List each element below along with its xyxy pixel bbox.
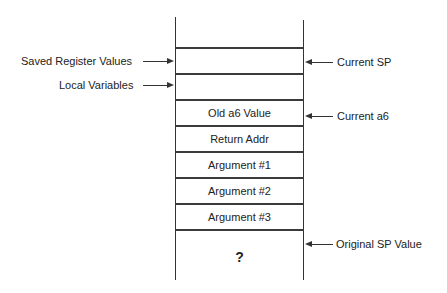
label-saved-register-values: Saved Register Values [21,54,132,68]
label-current-a6: Current a6 [337,109,389,123]
stack-cell-argument-2: Argument #2 [176,184,303,198]
stack-cell-return-addr: Return Addr [176,132,303,146]
stack-divider [175,47,304,49]
arrow-head-icon [167,82,174,88]
stack-cell-argument-3: Argument #3 [176,210,303,224]
arrow-saved-register-values [143,61,168,62]
stack-divider [175,99,304,101]
stack-divider [175,177,304,179]
stack-left-border [175,17,176,280]
arrow-head-icon [167,58,174,64]
arrow-local-variables [143,85,168,86]
arrow-original-sp [311,244,333,245]
stack-cell-argument-1: Argument #1 [176,158,303,172]
stack-divider [175,73,304,75]
arrow-current-sp [311,62,333,63]
arrow-current-a6 [311,116,333,117]
stack-divider [175,151,304,153]
stack-divider [175,125,304,127]
stack-right-border [303,20,304,280]
label-original-sp-value: Original SP Value [336,237,422,251]
stack-divider [175,229,304,231]
stack-cell-old-a6: Old a6 Value [176,106,303,120]
stack-divider [175,203,304,205]
label-local-variables: Local Variables [59,78,133,92]
label-current-sp: Current SP [337,55,391,69]
stack-cell-unknown: ? [176,249,303,265]
